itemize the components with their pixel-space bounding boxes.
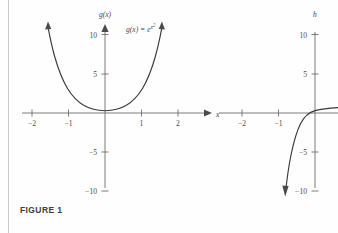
y-ticklabel--10: −10 <box>295 187 307 196</box>
x-ticklabel-1: 1 <box>140 119 144 128</box>
y-axis-arrowhead <box>101 24 108 32</box>
x-axis-arrowhead <box>204 109 212 116</box>
figure-1-plot: −2 −1 1 2 10 5 −5 −10 g(x) x g(x) = ex2 <box>8 0 223 200</box>
curve-left-arrowhead <box>45 22 51 30</box>
y-ticklabel-10: 10 <box>299 31 307 40</box>
figure-2-panel: −2 −1 10 5 −5 −10 h FIGURE 2 <box>223 0 338 233</box>
y-ticklabel--5: −5 <box>299 148 307 157</box>
x-axis-label: x <box>215 110 220 119</box>
x-ticklabel--2: −2 <box>238 119 246 128</box>
figure-1-panel: −2 −1 1 2 10 5 −5 −10 g(x) x g(x) = ex2 … <box>8 0 223 233</box>
x-ticklabel--2: −2 <box>28 119 36 128</box>
y-ticklabel-10: 10 <box>89 31 97 40</box>
figure-1-caption: FIGURE 1 <box>20 205 62 215</box>
curve-h <box>286 108 338 193</box>
function-annotation: g(x) = ex2 <box>126 22 156 34</box>
x-ticklabel--1: −1 <box>64 119 72 128</box>
y-axis-label: g(x) <box>99 10 112 19</box>
y-ticklabel-5: 5 <box>93 70 97 79</box>
textbook-page: −2 −1 1 2 10 5 −5 −10 g(x) x g(x) = ex2 … <box>0 0 338 233</box>
function-annotation-base: g(x) = e <box>126 25 151 34</box>
y-axis-label: h <box>313 10 317 19</box>
curve-right-arrowhead <box>159 22 165 30</box>
y-ticklabel--10: −10 <box>85 187 97 196</box>
figure-2-plot: −2 −1 10 5 −5 −10 h <box>223 0 338 200</box>
curve-bottom-arrowhead <box>282 186 288 197</box>
x-ticklabel-2: 2 <box>176 119 180 128</box>
x-ticklabel--1: −1 <box>274 119 282 128</box>
y-ticklabel-5: 5 <box>303 70 307 79</box>
y-ticklabel--5: −5 <box>89 148 97 157</box>
